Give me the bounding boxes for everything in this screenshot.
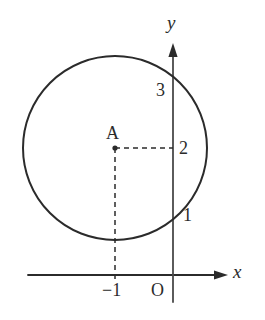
math-figure-circle-diagram: y x 3 2 1 A −1 O — [0, 0, 265, 320]
y-tick-label-3: 3 — [156, 81, 165, 99]
x-axis-arrowhead — [214, 271, 228, 280]
y-tick-label-2: 2 — [179, 139, 188, 157]
y-axis-arrowhead — [168, 43, 177, 57]
x-axis-label: x — [233, 262, 241, 281]
point-a-label: A — [106, 124, 119, 142]
y-tick-label-1: 1 — [183, 206, 192, 224]
diagram-canvas — [0, 0, 265, 320]
y-axis-label: y — [167, 13, 175, 32]
origin-label: O — [151, 281, 164, 299]
point-a-marker — [112, 145, 117, 150]
x-tick-label-neg1: −1 — [102, 281, 121, 299]
